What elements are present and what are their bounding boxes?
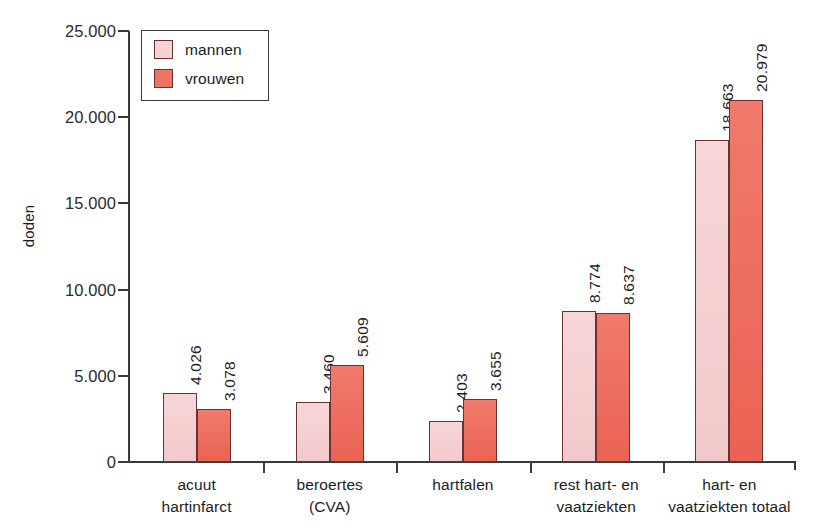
bar-mannen-0 [163, 393, 197, 462]
bar-value-label: 8.774 [586, 263, 604, 303]
category-label-line: hart- en [651, 474, 808, 496]
y-axis-tick-label: 5.000 [16, 366, 116, 385]
y-axis-tick-label: 20.000 [16, 108, 116, 127]
y-axis-tick-label: 10.000 [16, 280, 116, 299]
bar-value-label: 4.026 [187, 345, 205, 385]
x-axis-category-label: hart- envaatziekten totaal [651, 474, 808, 518]
x-axis-tick-mark [530, 462, 532, 473]
y-axis-tick-mark [118, 116, 129, 118]
bar-value-label: 3.655 [487, 351, 505, 391]
legend-label: mannen [185, 41, 242, 59]
bar-vrouwen-2 [463, 399, 497, 462]
bar-vrouwen-1 [330, 365, 364, 462]
legend-swatch-icon [154, 40, 173, 59]
legend-item-mannen: mannen [154, 40, 242, 59]
y-axis-tick-mark [118, 375, 129, 377]
y-axis-tick-mark [118, 202, 129, 204]
bar-mannen-1 [296, 402, 330, 462]
x-axis-tick-mark [396, 462, 398, 473]
bar-value-label: 8.637 [620, 265, 638, 305]
y-axis-tick-label: 0 [16, 453, 116, 472]
bar-mannen-3 [562, 311, 596, 462]
bar-chart: doden 25.00020.00015.00010.0005.0000 4.0… [0, 0, 813, 532]
bar-vrouwen-4 [729, 100, 763, 462]
legend-label: vrouwen [185, 70, 244, 88]
category-label-line: (CVA) [251, 496, 408, 518]
y-axis-tick-mark [118, 461, 129, 463]
bar-value-label: 20.979 [753, 44, 771, 93]
bar-vrouwen-0 [197, 409, 231, 462]
bar-mannen-4 [695, 140, 729, 462]
bar-value-label: 5.609 [354, 318, 372, 358]
legend-swatch-icon [154, 69, 173, 88]
bar-vrouwen-3 [596, 313, 630, 462]
y-axis-tick-mark [118, 30, 129, 32]
x-axis-tick-mark [663, 462, 665, 473]
x-axis-end-cap [794, 461, 796, 470]
category-label-line: vaatziekten totaal [651, 496, 808, 518]
y-axis-tick-label: 15.000 [16, 194, 116, 213]
x-axis-tick-mark [263, 462, 265, 473]
bar-mannen-2 [429, 421, 463, 462]
legend: mannen vrouwen [141, 30, 269, 101]
bar-value-label: 3.078 [221, 361, 239, 401]
y-axis-tick-labels: 25.00020.00015.00010.0005.0000 [12, 0, 116, 532]
y-axis-tick-label: 25.000 [16, 22, 116, 41]
legend-item-vrouwen: vrouwen [154, 69, 244, 88]
y-axis-tick-mark [118, 289, 129, 291]
